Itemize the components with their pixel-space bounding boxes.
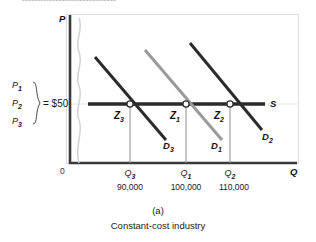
price-label-p3-sub: 3 xyxy=(18,121,22,128)
demand-label-d2-text: D xyxy=(262,131,269,142)
x-tick-symbol-q2-sub: 2 xyxy=(232,173,236,180)
x-tick-value-q2: 110,000 xyxy=(205,182,263,192)
price-label-p2-sub: 2 xyxy=(18,103,22,110)
axis-break-squiggle xyxy=(78,18,81,163)
x-tick-symbol-q3: Q3 xyxy=(110,168,150,180)
price-label-p3: P3 xyxy=(12,116,22,128)
equilibrium-label-z2: Z2 xyxy=(214,110,224,123)
caption-title: Constant-cost industry xyxy=(0,220,316,231)
demand-label-d2-sub: 2 xyxy=(269,137,273,144)
demand-label-d2: D2 xyxy=(262,131,273,144)
demand-label-d1-sub: 1 xyxy=(218,146,222,153)
demand-label-d1-text: D xyxy=(211,140,218,151)
demand-label-d3-sub: 3 xyxy=(170,146,174,153)
figure-container: ------------------------------- P Q xyxy=(0,0,316,242)
x-tick-symbol-q3-text: Q xyxy=(125,168,132,178)
x-tick-symbol-q2-text: Q xyxy=(225,168,232,178)
supply-label: S xyxy=(270,98,276,109)
equilibrium-label-z1: Z1 xyxy=(170,110,180,123)
demand-label-d1: D1 xyxy=(211,140,222,153)
caption-panel-letter: (a) xyxy=(0,205,316,216)
price-label-p2: P2 xyxy=(12,98,22,110)
equilibrium-marker-z3 xyxy=(127,101,133,107)
demand-curve-d1 xyxy=(145,50,222,140)
x-tick-symbol-q3-sub: 3 xyxy=(132,173,136,180)
x-tick-value-q3: 90,000 xyxy=(102,182,158,192)
x-axis-label: Q xyxy=(290,166,297,177)
y-axis-label: P xyxy=(59,13,65,24)
demand-label-d3: D3 xyxy=(163,140,174,153)
equilibrium-label-z3-sub: 3 xyxy=(120,116,124,123)
equilibrium-label-z2-sub: 2 xyxy=(220,116,224,123)
equilibrium-marker-z1 xyxy=(183,101,189,107)
origin-label: 0 xyxy=(60,166,65,176)
x-tick-symbol-q1-text: Q xyxy=(181,168,188,178)
demand-label-d3-text: D xyxy=(163,140,170,151)
x-tick-symbol-q1: Q1 xyxy=(166,168,206,180)
price-label-p1-sub: 1 xyxy=(18,85,22,92)
price-label-p1: P1 xyxy=(12,80,22,92)
price-value-label: = $50 xyxy=(43,98,68,109)
x-tick-symbol-q2: Q2 xyxy=(210,168,250,180)
equilibrium-marker-z2 xyxy=(227,101,233,107)
equilibrium-label-z1-sub: 1 xyxy=(176,116,180,123)
price-brace xyxy=(33,82,40,124)
equilibrium-label-z3: Z3 xyxy=(114,110,124,123)
x-tick-symbol-q1-sub: 1 xyxy=(188,173,192,180)
